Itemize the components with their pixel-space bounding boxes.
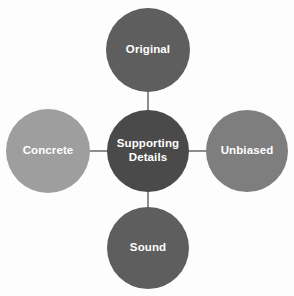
- node-unbiased[interactable]: Unbiased: [206, 110, 288, 192]
- node-concrete-label: Concrete: [19, 144, 78, 158]
- node-original-label: Original: [122, 43, 174, 57]
- node-unbiased-label: Unbiased: [217, 144, 278, 158]
- node-original[interactable]: Original: [106, 8, 190, 92]
- node-sound[interactable]: Sound: [107, 207, 189, 289]
- node-sound-label: Sound: [126, 241, 170, 255]
- node-supporting-details[interactable]: Supporting Details: [107, 110, 189, 192]
- node-concrete[interactable]: Concrete: [6, 109, 90, 193]
- center-label-line-1: Supporting: [117, 137, 179, 149]
- diagram-canvas: Original Unbiased Sound Concrete Support…: [0, 0, 294, 296]
- node-supporting-details-label: Supporting Details: [113, 137, 183, 164]
- center-label-line-2: Details: [129, 151, 167, 163]
